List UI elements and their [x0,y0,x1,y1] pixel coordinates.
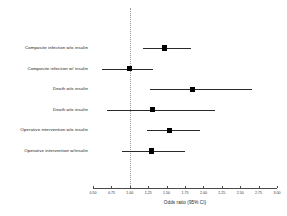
x-axis-tick [259,186,260,189]
x-axis-tick-label: 2.75 [249,191,269,195]
x-axis-line [93,188,277,189]
forest-row-label: Death w/o insulin [53,103,88,117]
x-axis-tick [130,186,131,189]
odds-ratio-marker [127,66,132,71]
forest-row: Operative intervention w/insulin [0,144,287,158]
x-axis-tick-label: 0.50 [83,191,103,195]
odds-ratio-marker [149,148,154,153]
x-axis-tick-label: 1.75 [175,191,195,195]
odds-ratio-marker [167,128,172,133]
forest-row-label: Composite infection w/o insulin [25,41,88,55]
odds-ratio-marker [162,45,167,50]
x-axis-tick [240,186,241,189]
x-axis-tick-label: 2.50 [230,191,250,195]
x-axis-tick-label: 0.75 [101,191,121,195]
confidence-interval-line [150,89,252,90]
x-axis-tick [185,186,186,189]
forest-row: Composite infection w/o insulin [0,41,287,55]
forest-row-label: Death w/o insulin [53,82,88,96]
forest-row-label: Operative intervention w/o insulin [20,123,88,137]
x-axis-tick-label: 3.00 [267,191,287,195]
x-axis-tick-label: 1.25 [138,191,158,195]
forest-row-label: Composite infection w/ insulin [28,62,88,76]
forest-row: Death w/o insulin [0,82,287,96]
x-axis-tick [222,186,223,189]
forest-row: Operative intervention w/o insulin [0,123,287,137]
x-axis-tick-label: 2.25 [212,191,232,195]
x-axis-tick [111,186,112,189]
x-axis-tick [277,186,278,189]
x-axis-tick-label: 1.00 [120,191,140,195]
x-axis-tick [148,186,149,189]
forest-row: Death w/o insulin [0,103,287,117]
confidence-interval-line [147,130,200,131]
forest-row-label: Operative intervention w/insulin [24,144,88,158]
x-axis-tick-label: 2.00 [193,191,213,195]
x-axis-tick-label: 1.50 [157,191,177,195]
reference-line [130,8,131,188]
x-axis-tick [167,186,168,189]
odds-ratio-marker [150,107,155,112]
x-axis-tick [93,186,94,189]
x-axis-tick [203,186,204,189]
forest-plot: Composite infection w/o insulinComposite… [0,0,287,216]
x-axis-title: Odds ratio (95% CI) [93,200,277,205]
odds-ratio-marker [190,87,195,92]
confidence-interval-line [107,110,215,111]
forest-row: Composite infection w/ insulin [0,62,287,76]
